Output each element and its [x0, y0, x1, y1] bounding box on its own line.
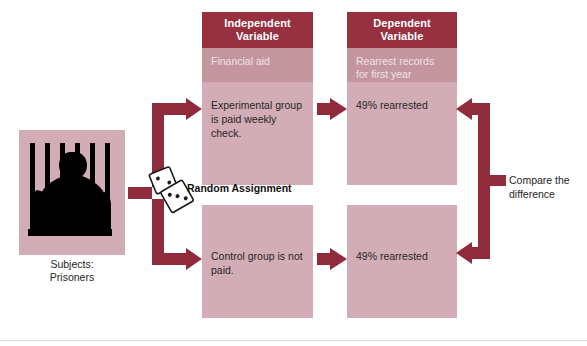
subjects-image-box — [19, 130, 125, 255]
dv-subheader-line1: Rearrest records — [356, 55, 448, 68]
arrow-compare-bracket — [456, 98, 506, 264]
dv-subheader-line2: for first year — [356, 68, 448, 81]
compare-difference-label: Compare the difference — [509, 173, 583, 201]
iv-header-line2: Variable — [236, 30, 279, 43]
experiment-flow-diagram: Subjects: Prisoners Independent Variable… — [0, 0, 587, 346]
dv-header-line1: Dependent — [373, 17, 431, 30]
random-assignment-label: Random Assignment — [187, 182, 292, 194]
experimental-group-cell: Experimental group is paid weekly check. — [202, 82, 313, 185]
iv-header-line1: Independent — [224, 17, 291, 30]
experimental-outcome-cell: 49% rearrested — [347, 82, 457, 185]
iv-subheader-text: Financial aid — [211, 55, 304, 68]
arrow-control-iv-to-dv — [317, 248, 347, 270]
dependent-variable-header: Dependent Variable — [347, 12, 457, 48]
dependent-variable-subheader: Rearrest records for first year — [347, 48, 457, 82]
experimental-group-text: Experimental group is paid weekly check. — [211, 98, 307, 140]
bottom-divider — [0, 340, 587, 341]
compare-label-line2: difference — [509, 187, 583, 201]
control-outcome-cell: 49% rearrested — [347, 205, 457, 318]
subjects-caption: Subjects: Prisoners — [19, 258, 125, 284]
subjects-caption-line2: Prisoners — [19, 271, 125, 284]
experimental-outcome-text: 49% rearrested — [356, 98, 451, 112]
arrow-experimental-iv-to-dv — [317, 98, 347, 120]
independent-variable-subheader: Financial aid — [202, 48, 313, 82]
subjects-caption-line1: Subjects: — [19, 258, 125, 271]
dv-header-line2: Variable — [381, 30, 424, 43]
compare-label-line1: Compare the — [509, 173, 583, 187]
control-group-cell: Control group is not paid. — [202, 205, 313, 318]
control-outcome-text: 49% rearrested — [356, 249, 451, 263]
control-group-text: Control group is not paid. — [211, 249, 307, 277]
prisoner-silhouette-icon — [19, 130, 125, 255]
independent-variable-header: Independent Variable — [202, 12, 313, 48]
